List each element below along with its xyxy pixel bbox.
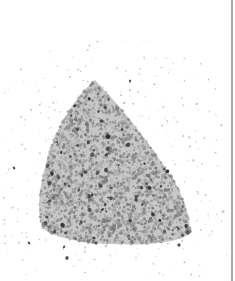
sand-grain	[166, 197, 170, 201]
sand-grain	[144, 222, 146, 224]
sand-grain	[107, 220, 110, 222]
sand-grain	[135, 187, 137, 189]
sand-grain	[120, 146, 122, 147]
sand-grain	[105, 111, 107, 114]
sand-pile-photo	[0, 0, 235, 281]
sand-grain	[123, 206, 125, 208]
sand-grain	[94, 225, 95, 226]
frame-edge-line	[231, 0, 233, 281]
sand-grain	[58, 225, 60, 227]
sand-grain	[51, 162, 52, 164]
dark-grain	[80, 173, 83, 177]
sand-grain	[91, 199, 93, 200]
sand-grain	[56, 138, 58, 140]
dark-grain	[107, 197, 110, 199]
scattered-grain	[183, 57, 185, 59]
sand-grain	[66, 221, 68, 224]
scattered-grain	[62, 248, 63, 250]
sand-grain	[39, 216, 42, 218]
scattered-grain	[8, 89, 9, 90]
scattered-grain	[169, 69, 170, 71]
